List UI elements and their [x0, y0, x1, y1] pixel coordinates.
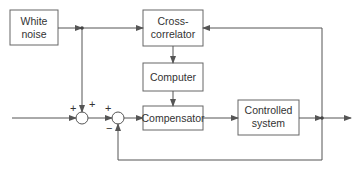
sum1-plus-top: +	[89, 98, 95, 110]
block-diagram: White noise Cross- correlator Computer C…	[0, 0, 363, 170]
white-noise-label-2: noise	[21, 28, 46, 40]
output-branch-point	[320, 116, 324, 120]
signal-lines	[12, 28, 351, 160]
computer-block: Computer	[143, 63, 203, 91]
noise-branch-point	[80, 26, 84, 30]
summing-junction-2	[112, 112, 124, 124]
white-noise-block: White noise	[10, 10, 58, 45]
summing-junction-1	[76, 112, 88, 124]
controlled-system-label-2: system	[252, 117, 286, 129]
computer-label: Computer	[150, 71, 197, 83]
compensator-label: Compensator	[141, 112, 205, 124]
compensator-block: Compensator	[141, 106, 205, 130]
cross-correlator-block: Cross- correlator	[143, 10, 203, 46]
white-noise-label-1: White	[21, 15, 48, 27]
cross-correlator-label-1: Cross-	[158, 15, 189, 27]
sum1-plus-left: +	[70, 102, 76, 114]
sum2-minus-bottom: −	[106, 122, 112, 134]
cross-correlator-label-2: correlator	[151, 28, 196, 40]
controlled-system-label-1: Controlled	[245, 104, 293, 116]
sum2-plus-left: +	[105, 102, 111, 114]
controlled-system-block: Controlled system	[238, 100, 299, 135]
